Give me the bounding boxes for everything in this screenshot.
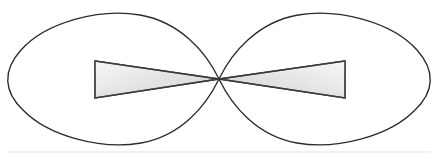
left-beam-sheen xyxy=(95,61,219,98)
right-beam-sheen xyxy=(219,61,345,98)
figure-container xyxy=(0,0,438,159)
radiation-pattern-diagram xyxy=(0,0,438,159)
